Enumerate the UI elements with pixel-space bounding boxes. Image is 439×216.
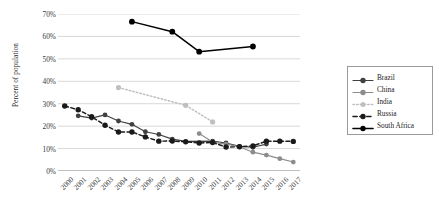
data-point — [196, 140, 201, 145]
data-point — [129, 129, 134, 134]
data-point — [75, 107, 80, 112]
data-point — [223, 144, 228, 149]
data-point — [196, 49, 202, 55]
series-india — [116, 85, 215, 125]
data-point — [89, 114, 94, 119]
legend-label: Brazil — [377, 72, 395, 83]
data-point — [183, 103, 188, 108]
data-point — [76, 113, 81, 118]
data-point — [264, 153, 269, 158]
y-tick-label: 50% — [30, 54, 56, 63]
legend-swatch-icon — [352, 120, 374, 131]
data-point — [143, 134, 148, 139]
data-point — [62, 103, 67, 108]
y-axis-tick-labels: 0%10%20%30%40%50%60%70% — [0, 0, 56, 216]
legend-swatch-icon — [352, 96, 374, 107]
legend-item-russia[interactable]: Russia — [352, 107, 429, 119]
data-point — [129, 19, 135, 25]
data-point — [170, 138, 175, 143]
series-brazil — [76, 113, 269, 150]
series-south-africa — [129, 19, 256, 55]
data-point — [197, 131, 202, 136]
line-chart: Percent of population 0%10%20%30%40%50%6… — [0, 0, 439, 216]
y-tick-label: 60% — [30, 32, 56, 41]
legend-swatch-icon — [352, 84, 374, 95]
legend-item-china[interactable]: China — [352, 83, 429, 95]
chart-legend: BrazilChinaIndiaRussiaSouth Africa — [347, 66, 433, 135]
data-point — [130, 122, 135, 127]
y-tick-label: 30% — [30, 99, 56, 108]
data-point — [210, 119, 215, 124]
legend-label: China — [377, 84, 394, 95]
legend-swatch-icon — [352, 108, 374, 119]
data-point — [277, 156, 282, 161]
data-point — [251, 150, 256, 155]
data-point — [264, 138, 269, 143]
data-point — [237, 144, 242, 149]
y-tick-label: 70% — [30, 10, 56, 19]
data-point — [250, 143, 255, 148]
data-point — [250, 44, 256, 50]
data-point — [210, 140, 215, 145]
legend-item-south-africa[interactable]: South Africa — [352, 119, 429, 131]
data-point — [291, 160, 296, 165]
data-point — [102, 123, 107, 128]
series-line — [65, 106, 294, 147]
series-russia — [62, 103, 296, 149]
data-point — [156, 132, 161, 137]
plot-area — [58, 14, 300, 171]
data-series-layer — [58, 14, 300, 171]
series-line — [132, 22, 253, 52]
y-tick-label: 10% — [30, 144, 56, 153]
y-tick-label: 20% — [30, 122, 56, 131]
y-tick-label: 0% — [30, 167, 56, 176]
data-point — [169, 29, 175, 35]
data-point — [277, 138, 282, 143]
series-line — [119, 88, 213, 122]
series-china — [197, 131, 296, 164]
y-tick-label: 40% — [30, 77, 56, 86]
data-point — [116, 85, 121, 90]
legend-swatch-icon — [352, 72, 374, 83]
legend-label: Russia — [377, 108, 396, 119]
legend-item-brazil[interactable]: Brazil — [352, 71, 429, 83]
legend-label: South Africa — [377, 120, 414, 131]
data-point — [116, 119, 121, 124]
data-point — [183, 139, 188, 144]
data-point — [143, 129, 148, 134]
data-point — [156, 138, 161, 143]
data-point — [103, 113, 108, 118]
legend-item-india[interactable]: India — [352, 95, 429, 107]
legend-label: India — [377, 96, 392, 107]
data-point — [116, 129, 121, 134]
data-point — [291, 139, 296, 144]
